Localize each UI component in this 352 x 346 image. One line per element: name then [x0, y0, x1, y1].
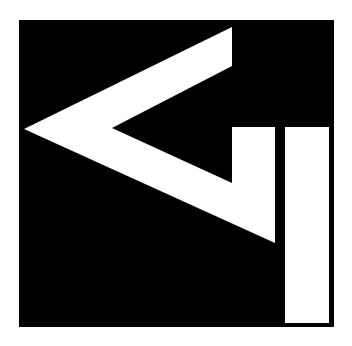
logo [0, 0, 352, 346]
vertical-bar-icon [285, 127, 329, 323]
